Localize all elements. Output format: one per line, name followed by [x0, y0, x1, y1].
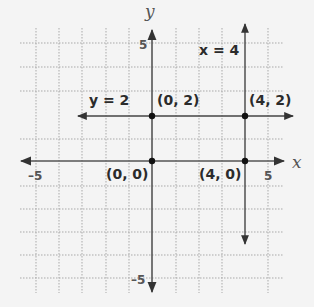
label-x-equals-4: x = 4 [199, 42, 240, 58]
y-axis-label: y [144, 1, 155, 21]
x-tick-5: 5 [264, 169, 272, 183]
x-tick-min: –5 [28, 169, 42, 183]
label-point-4-2: (4, 2) [249, 92, 291, 108]
y-tick-min: –5 [131, 273, 145, 287]
y-tick-max: 5 [139, 38, 147, 52]
label-y-equals-2: y = 2 [89, 92, 129, 108]
label-point-0-2: (0, 2) [157, 92, 199, 108]
point-4-2 [242, 113, 248, 119]
label-point-0-0: (0, 0) [106, 166, 148, 182]
point-4-0 [242, 158, 248, 164]
coordinate-plane: y x –5 5 5 5 –5 y = 2 x = 4 (0, 2) (4, 2… [0, 0, 314, 307]
label-point-4-0: (4, 0) [199, 166, 241, 182]
x-axis-label: x [292, 152, 302, 172]
point-0-2 [149, 113, 155, 119]
point-0-0 [149, 158, 155, 164]
